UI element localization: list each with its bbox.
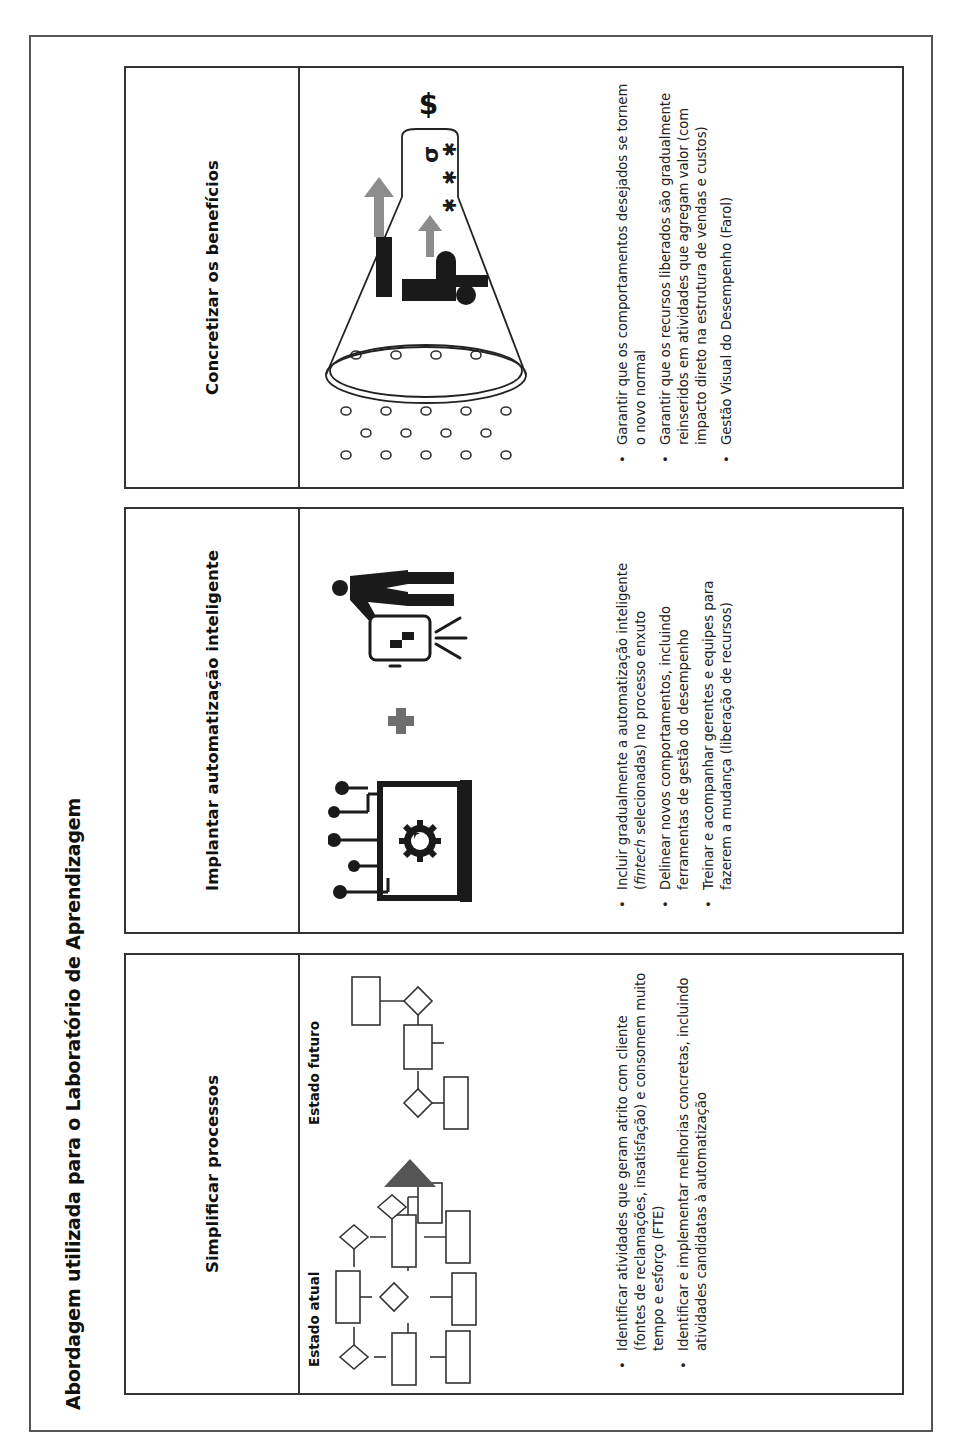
list-item: • Delinear novos comportamentos, incluin… — [657, 523, 693, 912]
resource-dots — [341, 351, 511, 459]
bullet-text: Gestão Visual do Desempenho (Farol) — [719, 197, 734, 445]
page-title: Abordagem utilizada para o Laboratório d… — [62, 798, 84, 1410]
document-page: Abordagem utilizada para o Laboratório d… — [0, 0, 953, 1442]
automation-gear-monitor-icon — [328, 762, 478, 912]
panel-implantar-automatizacao: Implantar automatização inteligente — [124, 507, 904, 934]
panel-illustration — [300, 509, 600, 932]
bullet-icon: • — [700, 900, 718, 908]
bullet-icon: • — [657, 455, 675, 463]
bullet-text: Delinear novos comportamentos, incluindo… — [658, 606, 691, 890]
flowchart-current-icon — [334, 1177, 494, 1387]
panel-simplificar-processos: Simplificar processos Estado atual Estad… — [124, 953, 904, 1395]
bullet-icon: • — [614, 900, 632, 908]
future-state-label: Estado futuro — [306, 1021, 322, 1125]
current-state-label: Estado atual — [306, 1272, 322, 1367]
bullet-icon: • — [675, 1361, 693, 1369]
bullet-text: Garantir que os recursos liberados são g… — [658, 93, 709, 445]
panel-illustration: Estado atual Estado futuro — [300, 955, 600, 1393]
svg-text:✱: ✱ — [439, 198, 460, 213]
symbol-in-funnel: σ — [418, 146, 443, 163]
bullet-icon: • — [614, 455, 632, 463]
list-item: • Gestão Visual do Desempenho (Farol) — [718, 82, 736, 467]
dollar-icon: $ — [419, 88, 438, 121]
list-item: • Incluir gradualmente a automatização i… — [614, 523, 650, 912]
bullet-icon: • — [718, 455, 736, 463]
funnel-benefits-icon: ✱ ✱ ✱ σ — [306, 67, 556, 467]
panel-heading: Concretizar os benefícios — [126, 68, 300, 487]
list-item: • Garantir que os comportamentos desejad… — [614, 82, 650, 467]
bullet-icon: • — [657, 900, 675, 908]
bullet-text: Garantir que os comportamentos desejados… — [615, 84, 648, 445]
svg-text:✱: ✱ — [439, 170, 460, 185]
panel-heading: Implantar automatização inteligente — [126, 509, 300, 932]
bullet-text: Identificar atividades que geram atrito … — [615, 973, 666, 1351]
panel-concretizar-beneficios: Concretizar os benefícios — [124, 66, 904, 489]
bullet-text-emphasis: fintech — [633, 839, 648, 885]
bullet-text: Identificar e implementar melhorias conc… — [676, 977, 709, 1351]
bullet-text: Incluir gradualmente a automatização int… — [615, 563, 648, 890]
bullet-icon: • — [614, 1361, 632, 1369]
list-item: • Treinar e acompanhar gerentes e equipe… — [700, 523, 736, 912]
plus-icon — [386, 706, 416, 736]
panel-illustration: ✱ ✱ ✱ σ $ — [300, 68, 600, 487]
bullet-list: • Incluir gradualmente a automatização i… — [614, 523, 743, 912]
bullet-list: • Garantir que os comportamentos desejad… — [614, 82, 743, 467]
bullet-list: • Identificar atividades que geram atrit… — [614, 969, 718, 1373]
list-item: • Identificar atividades que geram atrit… — [614, 969, 668, 1373]
arrow-right-triangle-icon — [380, 1155, 440, 1191]
list-item: • Garantir que os recursos liberados são… — [657, 82, 711, 467]
flowchart-future-icon — [340, 965, 490, 1135]
panel-heading: Simplificar processos — [126, 955, 300, 1393]
bullet-text: Treinar e acompanhar gerentes e equipes … — [701, 581, 734, 890]
list-item: • Identificar e implementar melhorias co… — [675, 969, 711, 1373]
presenter-board-icon — [328, 530, 478, 670]
